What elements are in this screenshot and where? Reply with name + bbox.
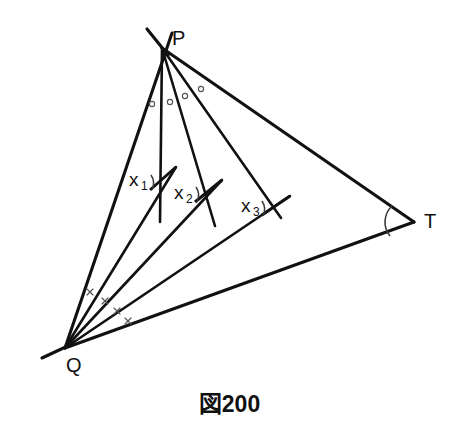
segment-label-x3-sub: 3	[253, 205, 260, 219]
mark-o-4	[198, 86, 203, 91]
line-q-cevian-2	[65, 180, 222, 348]
tick-x2	[195, 180, 222, 202]
vertex-labels: P Q T	[66, 27, 436, 376]
mark-x-2	[102, 298, 108, 304]
segment-label-x3: x 3	[241, 195, 260, 219]
segment-label-x2-sub: 2	[186, 192, 193, 206]
vertex-label-p: P	[172, 27, 185, 49]
line-q-to-t	[65, 222, 414, 348]
mark-x-1	[87, 289, 93, 295]
rays-from-p	[65, 29, 414, 348]
segment-label-x1: x 1	[129, 169, 148, 193]
line-p-to-q	[65, 33, 172, 348]
line-p-cevian-1	[160, 48, 162, 222]
line-q-cevian-1	[65, 167, 176, 348]
geometry-diagram: P Q T x 1 x 2 x 3	[0, 0, 459, 440]
figure-caption: 図200	[0, 385, 459, 419]
mark-x-4	[125, 318, 131, 324]
vertex-label-t: T	[424, 210, 436, 232]
mark-o-1	[149, 101, 154, 106]
mark-o-2	[167, 99, 172, 104]
rays-from-q	[42, 167, 414, 358]
segment-label-x2: x 2	[174, 182, 193, 206]
vertex-label-q: Q	[66, 354, 82, 376]
segment-label-x3-base: x	[241, 195, 251, 216]
segment-label-x1-sub: 1	[141, 179, 148, 193]
segment-label-x1-base: x	[129, 169, 139, 190]
figure-container: P Q T x 1 x 2 x 3 図200	[0, 0, 459, 440]
mark-o-3	[182, 93, 187, 98]
segment-label-x2-base: x	[174, 182, 184, 203]
